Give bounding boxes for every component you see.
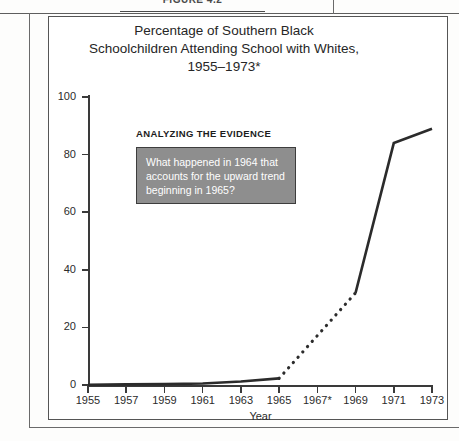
page-rule-bottom	[29, 427, 459, 428]
figure-caption-label: FIGURE 4.2	[120, 0, 265, 8]
y-axis-line	[88, 95, 90, 387]
x-axis-tick	[202, 386, 204, 393]
chart-title-line-3: 1955–1973*	[48, 58, 400, 76]
y-axis-tick	[82, 327, 89, 329]
x-axis-tick-label: 1973	[409, 394, 455, 406]
y-axis-tick-label: 80	[42, 148, 76, 160]
x-axis-tick	[278, 386, 280, 393]
y-axis-tick-label-wrap: 60	[42, 212, 76, 213]
figure-caption-rule	[120, 11, 265, 12]
y-axis-tick-label: 40	[42, 263, 76, 275]
y-axis-tick	[82, 211, 89, 213]
y-axis-tick-label-wrap: 100	[42, 97, 76, 98]
x-axis-line	[88, 385, 433, 387]
annotation-line-1: What happened in 1964 that	[146, 155, 286, 169]
x-axis-tick	[240, 386, 242, 393]
y-axis-tick-label-wrap: 0	[42, 385, 76, 386]
y-axis-tick	[82, 269, 89, 271]
figure-page: FIGURE 4.2 Percentage of Southern Black …	[0, 0, 459, 441]
page-rule-left	[29, 13, 30, 428]
x-axis-tick	[87, 386, 89, 393]
x-axis-tick	[431, 386, 433, 393]
chart-title: Percentage of Southern Black Schoolchild…	[48, 22, 400, 76]
y-axis-tick-label-wrap: 40	[42, 270, 76, 271]
y-axis-tick-label: 0	[42, 378, 76, 390]
chart-title-line-2: Schoolchildren Attending School with Whi…	[48, 40, 400, 58]
page-rule-vertical-right	[333, 0, 334, 14]
y-axis-tick	[82, 96, 89, 98]
annotation-box: What happened in 1964 that accounts for …	[136, 147, 296, 204]
figure-frame	[48, 16, 448, 420]
y-axis-tick-label: 60	[42, 205, 76, 217]
chart-title-line-1: Percentage of Southern Black	[48, 22, 400, 40]
y-axis-tick-label: 100	[42, 90, 76, 102]
page-rule-top	[0, 13, 459, 14]
x-axis-tick	[393, 386, 395, 393]
annotation-line-2: accounts for the upward trend	[146, 169, 286, 183]
x-axis-tick	[164, 386, 166, 393]
x-axis-tick	[317, 386, 319, 393]
y-axis-tick-label: 20	[42, 320, 76, 332]
y-axis-tick-label-wrap: 80	[42, 155, 76, 156]
y-axis-tick-label-wrap: 20	[42, 327, 76, 328]
annotation-text: What happened in 1964 that accounts for …	[146, 155, 286, 197]
annotation-heading: ANALYZING THE EVIDENCE	[136, 128, 271, 139]
annotation-line-3: beginning in 1965?	[146, 183, 286, 197]
x-axis-tick	[355, 386, 357, 393]
y-axis-tick	[82, 154, 89, 156]
x-axis-tick	[125, 386, 127, 393]
x-axis-title: Year	[88, 410, 433, 422]
